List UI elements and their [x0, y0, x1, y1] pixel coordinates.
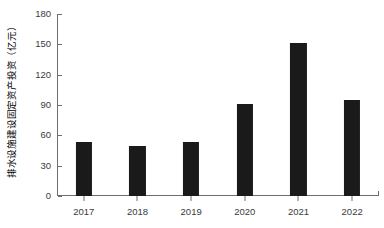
bar-2021[interactable]: [290, 43, 306, 196]
x-axis-tick-mark: [191, 196, 192, 201]
y-axis-tick-label: 30: [11, 160, 51, 171]
y-axis-tick-label: 150: [11, 38, 51, 49]
x-axis-tick-mark: [244, 196, 245, 201]
bars-layer: 201720182019202020212022: [57, 14, 379, 196]
bar-chart-figure: 排水设施建设固定资产投资（亿元） 0306090120150180 201720…: [0, 0, 384, 228]
x-axis-tick-mark: [352, 196, 353, 201]
y-axis-tick-label: 0: [11, 190, 51, 201]
y-axis-tick-label: 90: [11, 99, 51, 110]
x-axis-tick-label: 2020: [215, 206, 275, 217]
x-axis-tick-label: 2021: [268, 206, 328, 217]
bar-2022[interactable]: [344, 100, 360, 196]
bar-group[interactable]: 2022: [325, 14, 379, 196]
plot-area: 0306090120150180 20172018201920202021202…: [57, 14, 379, 196]
x-axis-tick-mark: [137, 196, 138, 201]
bar-group[interactable]: 2021: [272, 14, 326, 196]
x-axis-tick-label: 2019: [161, 206, 221, 217]
bar-group[interactable]: 2019: [164, 14, 218, 196]
bar-2019[interactable]: [183, 142, 199, 196]
x-axis-tick-mark: [298, 196, 299, 201]
bar-2017[interactable]: [76, 142, 92, 196]
y-axis-tick-mark: [58, 196, 62, 197]
y-axis-tick-label: 120: [11, 69, 51, 80]
bar-group[interactable]: 2020: [218, 14, 272, 196]
bar-group[interactable]: 2017: [57, 14, 111, 196]
bar-2020[interactable]: [237, 104, 253, 196]
x-axis-tick-label: 2017: [54, 206, 114, 217]
bar-group[interactable]: 2018: [111, 14, 165, 196]
y-axis-tick-label: 60: [11, 129, 51, 140]
x-axis-tick-mark: [83, 196, 84, 201]
y-axis-tick-label: 180: [11, 8, 51, 19]
x-axis-tick-label: 2018: [107, 206, 167, 217]
x-axis-tick-label: 2022: [322, 206, 382, 217]
bar-2018[interactable]: [129, 146, 145, 196]
